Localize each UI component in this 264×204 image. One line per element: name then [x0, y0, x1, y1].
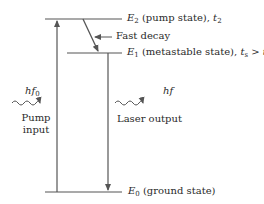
e1-label: E1 (metastable state), ts > t2: [127, 47, 264, 57]
e0-label: E0 (ground state): [128, 186, 215, 196]
e2-label: E2 (pump state), t2: [127, 13, 222, 23]
fast-decay-label: Fast decay: [116, 31, 170, 41]
pump-input-label: Pump input: [16, 112, 56, 136]
pump-photon-label: hf0: [25, 86, 40, 96]
pump-photon-wave-icon: [12, 101, 40, 105]
laser-photon-label: hf: [163, 86, 173, 96]
fast-decay-arrow: [83, 19, 98, 51]
laser-photon-wave-icon: [115, 101, 143, 105]
laser-output-label: Laser output: [117, 114, 182, 124]
